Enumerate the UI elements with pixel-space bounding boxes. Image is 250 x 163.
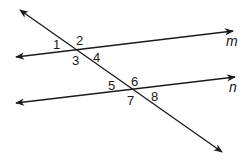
angle-8-label: 8 — [151, 89, 158, 104]
angle-6-label: 6 — [131, 74, 138, 89]
line-n-label: n — [229, 79, 237, 95]
transversal-line — [20, 10, 222, 152]
angle-2-label: 2 — [76, 33, 83, 48]
angle-4-label: 4 — [93, 50, 100, 65]
diagram-canvas: m n 1 2 3 4 5 6 7 8 — [0, 0, 250, 163]
angle-5-label: 5 — [108, 78, 115, 93]
line-m-label: m — [226, 33, 238, 49]
angle-3-label: 3 — [72, 53, 79, 68]
angle-7-label: 7 — [127, 93, 134, 108]
line-m — [16, 31, 233, 57]
angle-1-label: 1 — [53, 37, 60, 52]
line-n — [16, 77, 235, 103]
diagram-svg: m n 1 2 3 4 5 6 7 8 — [0, 0, 250, 163]
